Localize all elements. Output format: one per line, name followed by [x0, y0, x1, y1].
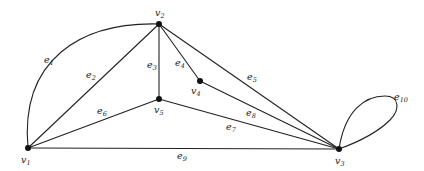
edges — [27, 24, 397, 149]
v1-label: v1 — [21, 154, 31, 167]
edge-e6 — [28, 99, 159, 148]
vertex-v1 — [25, 145, 31, 151]
e3-label: e3 — [147, 59, 157, 72]
e7-label: e7 — [226, 121, 237, 134]
vertex-v5 — [156, 96, 162, 102]
graph-diagram: e1e2e3e4e5e6e7e8e9e10v1v2v3v4v5 — [0, 0, 424, 171]
v5-label: v5 — [154, 104, 164, 117]
vertex-v2 — [156, 21, 162, 27]
edge-e5 — [159, 24, 339, 149]
e9-label: e9 — [177, 150, 187, 163]
e8-label: e8 — [246, 107, 256, 120]
edge-e10 — [339, 96, 397, 149]
e1-label: e1 — [44, 54, 54, 67]
v4-label: v4 — [191, 85, 201, 98]
edge-e8 — [200, 81, 339, 149]
edge-e9 — [28, 148, 339, 149]
v3-label: v3 — [335, 155, 345, 168]
e4-label: e4 — [175, 57, 185, 70]
v2-label: v2 — [155, 7, 165, 20]
e6-label: e6 — [97, 105, 107, 118]
vertex-v4 — [197, 78, 203, 84]
edge-e2 — [28, 24, 159, 148]
edge-e4 — [159, 24, 200, 81]
e2-label: e2 — [86, 69, 96, 82]
vertex-v3 — [336, 146, 342, 152]
e5-label: e5 — [247, 71, 257, 84]
